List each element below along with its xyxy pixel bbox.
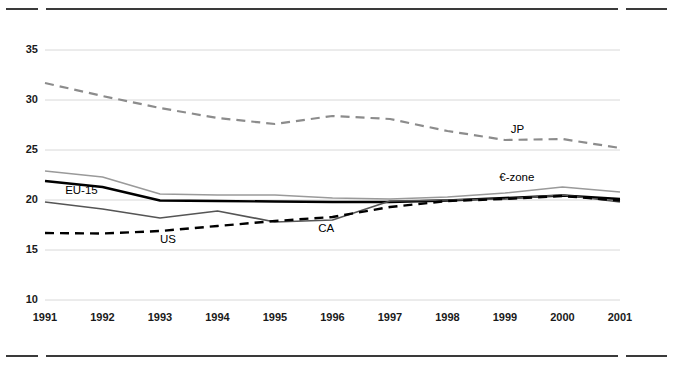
series-line-jp [45,83,620,148]
series-label-eu-15: EU-15 [65,184,98,196]
y-tick-label-35: 35 [14,43,38,55]
y-tick-label-25: 25 [14,143,38,155]
bottom-divider-right-segment [626,355,667,357]
x-tick-label-1997: 1997 [365,311,415,323]
x-tick-label-1991: 1991 [20,311,70,323]
x-tick-label-1993: 1993 [135,311,185,323]
y-tick-label-20: 20 [14,193,38,205]
x-tick-label-1995: 1995 [250,311,300,323]
x-tick-label-1996: 1996 [308,311,358,323]
x-tick-label-1999: 1999 [480,311,530,323]
series-label-ca: CA [318,222,334,234]
figure-container: 101520253035 199119921993199419951996199… [0,0,673,368]
x-tick-label-1998: 1998 [423,311,473,323]
x-tick-label-1992: 1992 [78,311,128,323]
series-label-euro-zone: €-zone [499,171,534,183]
y-tick-label-10: 10 [14,293,38,305]
y-tick-label-15: 15 [14,243,38,255]
series-label-us: US [160,233,176,245]
series-lines-group [45,83,620,234]
series-label-jp: JP [511,123,524,135]
bottom-divider-left-segment [6,355,38,357]
y-tick-label-30: 30 [14,93,38,105]
x-tick-label-2000: 2000 [538,311,588,323]
x-tick-label-2001: 2001 [595,311,645,323]
x-tick-label-1994: 1994 [193,311,243,323]
bottom-divider-middle-segment [46,355,618,357]
series-line-eu-15 [45,181,620,202]
